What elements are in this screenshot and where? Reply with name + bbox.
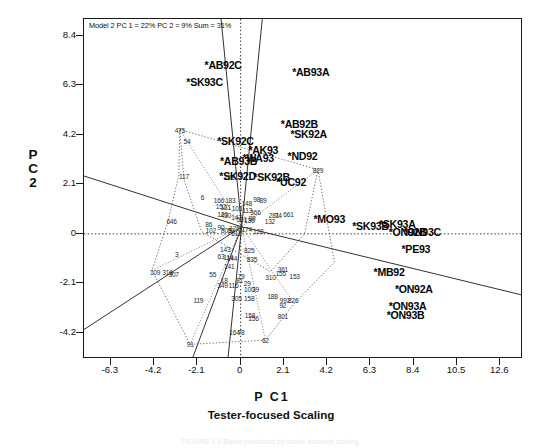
genotype-point-label: 136	[244, 216, 254, 223]
x-tick-mark	[153, 358, 154, 365]
x-tick-mark	[499, 358, 500, 365]
environment-point-label: *MB92	[374, 266, 405, 278]
x-tick-label: -6.3	[102, 364, 119, 375]
x-tick-mark	[456, 358, 457, 365]
y-tick-mark	[76, 183, 83, 184]
genotype-point-label: 307	[168, 271, 178, 278]
genotype-point-label: 6	[201, 193, 204, 200]
genotype-point-label: 143	[220, 245, 230, 252]
genotype-point-label: 55	[209, 271, 216, 278]
y-tick-label: 2.1	[63, 177, 76, 188]
genotype-point-label: 119	[193, 296, 203, 303]
genotype-point-label: 128	[253, 228, 263, 235]
x-tick-label: 10.5	[447, 364, 466, 375]
x-tick-mark	[110, 358, 111, 365]
genotype-point-label: 188	[267, 292, 277, 299]
genotype-point-label: 174	[242, 226, 252, 233]
genotype-point-label: 475	[175, 126, 185, 133]
environment-point-label: *PE93	[402, 243, 431, 255]
y-tick-label: 6.3	[63, 78, 76, 89]
genotype-point-label: 825	[244, 247, 254, 254]
x-tick-label: 8.4	[406, 364, 419, 375]
y-tick-mark	[76, 84, 83, 85]
figure-caption: FIGURE 1.1 Biplot produced by tester-foc…	[0, 437, 542, 446]
sector-divider-ray-7	[192, 227, 241, 358]
x-axis-label-prefix: P C	[254, 390, 281, 404]
genotype-point-label: 829	[313, 166, 323, 173]
y-tick-label: -4.2	[59, 326, 76, 337]
genotype-point-label: 116	[228, 281, 238, 288]
y-tick-mark	[76, 233, 83, 234]
x-tick-mark	[413, 358, 414, 365]
environment-point-label: *ON92A	[395, 283, 433, 295]
environment-point-label: *SK92D	[219, 170, 255, 182]
genotype-point-label: 54	[184, 138, 191, 145]
genotype-point-label: 826	[288, 297, 298, 304]
genotype-point-label: 430	[221, 212, 231, 219]
environment-point-label: *SK93C	[186, 76, 222, 88]
x-tick-mark	[326, 358, 327, 365]
genotype-point-label: 62	[262, 337, 269, 344]
genotype-point-label: 144	[227, 254, 237, 261]
y-tick-mark	[76, 134, 83, 135]
x-tick-mark	[240, 358, 241, 365]
x-tick-mark	[283, 358, 284, 365]
genotype-point-label: 109	[150, 269, 160, 276]
y-tick-mark	[76, 332, 83, 333]
genotype-point-label: 158	[244, 295, 254, 302]
x-axis-label-suffix: 1	[281, 390, 288, 404]
y-axis-label-line2: C	[22, 162, 44, 176]
genotype-point-label: 89	[259, 196, 266, 203]
y-tick-label: 8.4	[63, 29, 76, 40]
environment-point-label: *AB92C	[205, 59, 242, 71]
genotype-point-label: 78	[238, 328, 245, 335]
sector-divider-ray-2	[84, 227, 242, 330]
plot-title-annotation: Model 2 PC 1 = 22% PC 2 = 9% Sum = 31%	[89, 21, 231, 30]
genotype-point-label: 74	[275, 211, 282, 218]
x-tick-label: 6.3	[363, 364, 376, 375]
genotype-point-label: 646	[166, 218, 176, 225]
genotype-point-label: 801	[278, 313, 288, 320]
x-tick-label: -2.1	[188, 364, 205, 375]
genotype-point-label: 39	[252, 286, 259, 293]
genotype-point-label: 310	[265, 273, 275, 280]
genotype-point-label: 512	[231, 229, 241, 236]
environment-point-label: *UC92	[276, 176, 306, 188]
y-tick-label: -2.1	[59, 276, 76, 287]
genotype-point-label: 361	[278, 265, 288, 272]
genotype-point-label: 661	[283, 210, 293, 217]
environment-point-label: *ON93C	[403, 226, 441, 238]
environment-point-label: *WA93	[242, 152, 273, 164]
genotype-point-label: 141	[224, 262, 234, 269]
genotype-point-label: 102	[206, 226, 216, 233]
y-tick-mark	[76, 282, 83, 283]
figure-container: -4.2-2.102.14.26.38.4 -6.3-4.2-2.102.14.…	[0, 0, 542, 448]
environment-point-label: *MO93	[314, 213, 345, 225]
x-tick-mark	[369, 358, 370, 365]
x-tick-label: 0	[237, 364, 242, 375]
x-tick-mark	[196, 358, 197, 365]
y-tick-label: 4.2	[63, 128, 76, 139]
genotype-point-label: 835	[247, 255, 257, 262]
genotype-point-label: 92	[279, 302, 286, 309]
plot-area: Model 2 PC 1 = 22% PC 2 = 9% Sum = 31% 4…	[83, 18, 522, 358]
y-tick-mark	[76, 35, 83, 36]
genotype-point-label: 3	[175, 250, 178, 257]
environment-point-label: *SK92A	[290, 128, 326, 140]
genotype-point-label: 117	[179, 173, 189, 180]
x-axis-label: P C1	[0, 390, 542, 404]
genotype-point-label: 305	[231, 295, 241, 302]
genotype-point-label: 153	[289, 272, 299, 279]
genotype-point-label: 183	[225, 197, 235, 204]
sector-divider-ray-3	[242, 227, 522, 295]
figure-subtitle: Tester-focused Scaling	[0, 408, 542, 421]
y-axis-label: P C 2	[22, 148, 44, 191]
environment-point-label: *ND92	[288, 150, 318, 162]
genotype-point-label: 156	[248, 314, 258, 321]
environment-point-label: *AB93A	[292, 66, 329, 78]
y-axis-label-line1: P	[22, 148, 44, 162]
environment-point-label: *ON93B	[387, 309, 425, 321]
genotype-point-label: 79	[238, 272, 245, 279]
genotype-point-label: 103	[232, 205, 242, 212]
genotype-point-label: 132	[265, 217, 275, 224]
